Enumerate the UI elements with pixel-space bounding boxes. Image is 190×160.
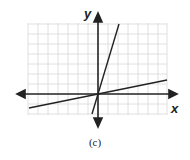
y-axis [94,13,102,127]
x-axis-left-arrow-icon [17,90,25,98]
x-axis-right-arrow-icon [169,90,177,98]
figure-caption: (c) [0,136,190,148]
y-axis-down-arrow-icon [94,118,102,127]
x-axis-label: x [171,101,178,116]
y-axis-up-arrow-icon [94,13,102,22]
y-axis-label: y [84,6,91,21]
steep-line [92,24,119,114]
